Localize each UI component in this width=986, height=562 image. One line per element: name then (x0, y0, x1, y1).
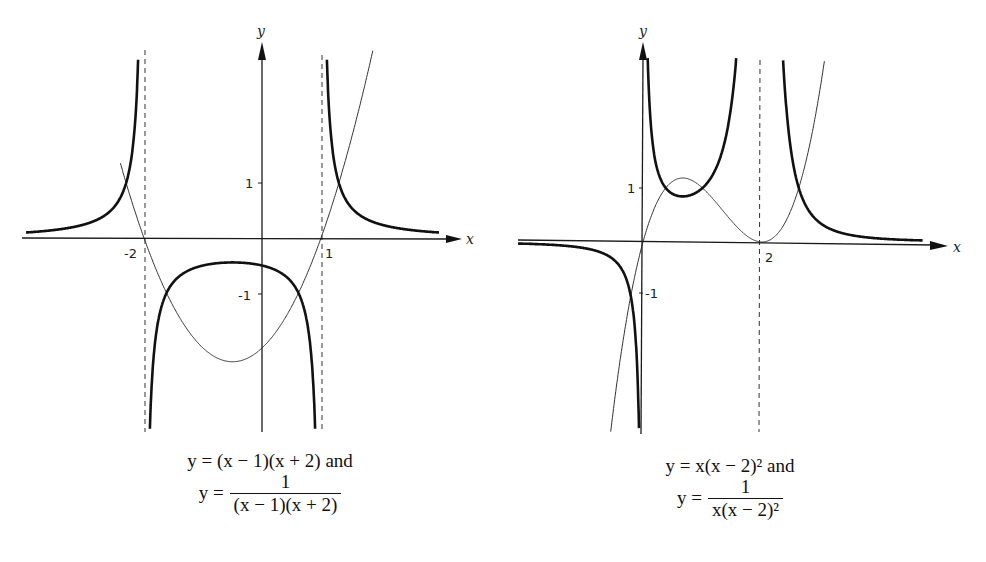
curve-reciprocal-middle-branch (150, 262, 315, 428)
y-tick-label-neg1: -1 (238, 288, 251, 303)
numerator: 1 (277, 472, 295, 493)
x-tick-label-1: 1 (325, 246, 333, 261)
numerator: 1 (737, 477, 755, 498)
curve-reciprocal-middle-branch (648, 58, 737, 196)
y-tick-label-1: 1 (245, 176, 253, 191)
fraction: 1 (x − 1)(x + 2) (230, 472, 342, 516)
left-caption-fraction-equation: y = 1 (x − 1)(x + 2) (199, 472, 342, 516)
right-graph: x y 2 1 -1 (518, 23, 961, 434)
x-axis-arrow-icon (446, 235, 462, 243)
left-caption: y = (x − 1)(x + 2) and y = 1 (x − 1)(x +… (140, 451, 400, 516)
x-axis (518, 240, 935, 245)
right-caption: y = x(x − 2)² and y = 1 x(x − 2)² (620, 456, 840, 521)
x-tick-label-neg2: -2 (124, 246, 137, 261)
denominator: x(x − 2)² (708, 498, 783, 521)
x-tick-label-2: 2 (765, 250, 773, 265)
x-axis (22, 238, 452, 239)
x-axis-label: x (466, 231, 474, 247)
curve-reciprocal-right-branch (783, 60, 923, 240)
y-axis-label: y (638, 23, 648, 39)
y-axis-label: y (256, 23, 266, 39)
y-axis (641, 58, 643, 434)
y-tick-label-neg1: -1 (645, 286, 658, 301)
curve-reciprocal-left-branch (26, 60, 138, 233)
denominator: (x − 1)(x + 2) (230, 493, 342, 516)
left-caption-line1: y = (x − 1)(x + 2) and (140, 451, 400, 472)
x-axis-arrow-icon (930, 241, 948, 250)
y-axis-arrow-icon (639, 42, 647, 60)
left-graph: x y -2 1 1 -1 (22, 23, 474, 432)
curve-reciprocal-right-branch (327, 60, 439, 233)
right-caption-y-eq: y = (677, 488, 702, 509)
y-axis-arrow-icon (258, 42, 266, 60)
curve-reciprocal-left-branch (518, 244, 639, 429)
y-tick-label-1: 1 (627, 181, 635, 196)
left-caption-y-eq: y = (199, 483, 224, 504)
right-caption-fraction-equation: y = 1 x(x − 2)² (677, 477, 783, 521)
asymptote-x-2 (759, 60, 760, 432)
right-caption-line1: y = x(x − 2)² and (620, 456, 840, 477)
x-axis-label: x (953, 239, 961, 255)
fraction: 1 x(x − 2)² (708, 477, 783, 521)
